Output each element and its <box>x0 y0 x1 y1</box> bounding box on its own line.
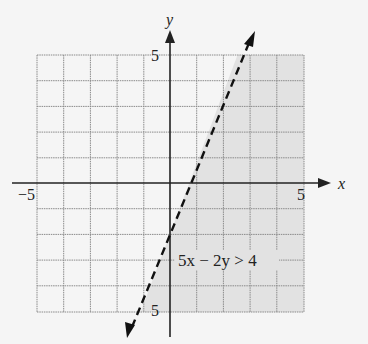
x-min-tick: −5 <box>18 187 35 203</box>
y-axis-label: y <box>166 12 173 28</box>
x-max-tick: 5 <box>297 187 305 203</box>
y-min-tick: 5 <box>151 303 159 319</box>
x-axis-arrow-icon <box>318 178 331 188</box>
y-max-tick: 5 <box>151 48 159 64</box>
inequality-graph <box>0 0 368 344</box>
x-axis-label: x <box>338 176 345 192</box>
line-arrow-top-icon <box>244 31 255 47</box>
inequality-label: 5x − 2y > 4 <box>178 252 257 269</box>
y-axis-arrow-icon <box>165 30 175 43</box>
